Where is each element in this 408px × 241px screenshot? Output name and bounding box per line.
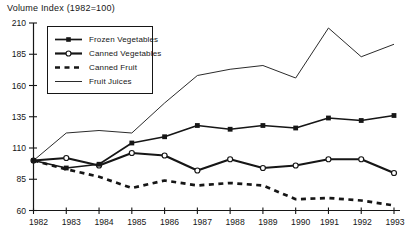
x-tick-label: 1982 (29, 217, 48, 227)
marker-circle-canned-vegetables (195, 168, 200, 173)
marker-circle-canned-vegetables (326, 157, 331, 162)
y-tick-label: 210 (12, 18, 27, 28)
legend-label-canned-fruit: Canned Fruit (89, 63, 137, 72)
legend-label-frozen-vegetables: Frozen Vegetables (89, 35, 158, 44)
marker-square-frozen-vegetables (129, 141, 134, 146)
x-tick-label: 1986 (160, 217, 179, 227)
legend-sample-dashed-line-icon (54, 62, 84, 73)
marker-square-frozen-vegetables (97, 162, 102, 167)
x-tick-label: 1990 (291, 217, 310, 227)
x-tick-label: 1983 (62, 217, 81, 227)
y-tick-label: 185 (12, 49, 27, 59)
legend-marker-square (66, 37, 71, 42)
marker-square-frozen-vegetables (359, 118, 364, 123)
y-tick-label: 135 (12, 112, 27, 122)
marker-square-frozen-vegetables (392, 113, 397, 118)
chart-page: Volume Index (1982=100) 6085110135160185… (0, 0, 408, 241)
series-line-canned-vegetables (34, 153, 395, 173)
legend-sample-line-square-icon (54, 34, 84, 45)
x-tick-label: 1987 (193, 217, 212, 227)
marker-square-frozen-vegetables (326, 116, 331, 121)
legend-item-fruit-juices: Fruit Juices (54, 76, 150, 87)
y-tick-label: 60 (16, 206, 26, 216)
marker-square-frozen-vegetables (162, 134, 167, 139)
legend-sample-thin-line-icon (54, 76, 84, 87)
marker-square-frozen-vegetables (64, 166, 69, 171)
legend-marker-circle (66, 51, 71, 56)
legend: Frozen Vegetables Canned Vegetables Cann… (47, 26, 153, 94)
marker-circle-canned-vegetables (392, 171, 397, 176)
marker-circle-canned-vegetables (359, 157, 364, 162)
x-tick-label: 1992 (353, 217, 372, 227)
x-tick-label: 1989 (258, 217, 277, 227)
marker-square-frozen-vegetables (228, 127, 233, 132)
marker-circle-canned-vegetables (162, 153, 167, 158)
marker-circle-canned-vegetables (228, 157, 233, 162)
marker-circle-canned-vegetables (64, 156, 69, 161)
x-tick-label: 1988 (226, 217, 245, 227)
marker-circle-canned-vegetables (293, 163, 298, 168)
y-tick-label: 85 (16, 174, 26, 184)
y-tick-label: 160 (12, 81, 27, 91)
marker-circle-canned-vegetables (260, 166, 265, 171)
y-tick-label: 110 (12, 143, 26, 153)
x-tick-label: 1985 (127, 217, 146, 227)
marker-square-frozen-vegetables (195, 123, 200, 128)
marker-square-frozen-vegetables (293, 126, 298, 131)
series-line-canned-fruit (34, 161, 395, 206)
x-tick-label: 1984 (94, 217, 113, 227)
marker-square-frozen-vegetables (31, 158, 36, 163)
legend-label-canned-vegetables: Canned Vegetables (89, 49, 161, 58)
legend-item-canned-vegetables: Canned Vegetables (54, 48, 150, 59)
legend-item-canned-fruit: Canned Fruit (54, 62, 150, 73)
marker-circle-canned-vegetables (129, 151, 134, 156)
legend-sample-line-circle-icon (54, 48, 84, 59)
x-tick-label: 1993 (385, 217, 404, 227)
x-tick-label: 1991 (320, 217, 339, 227)
marker-square-frozen-vegetables (261, 123, 266, 128)
legend-item-frozen-vegetables: Frozen Vegetables (54, 34, 150, 45)
legend-label-fruit-juices: Fruit Juices (89, 77, 132, 86)
